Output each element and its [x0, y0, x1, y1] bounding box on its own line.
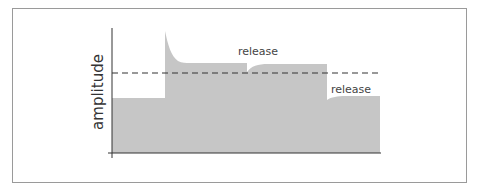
amplitude-chart — [0, 0, 479, 192]
release-annotation-1: release — [238, 45, 278, 58]
y-axis-label: amplitude — [89, 54, 107, 130]
release-annotation-2: release — [331, 83, 371, 96]
